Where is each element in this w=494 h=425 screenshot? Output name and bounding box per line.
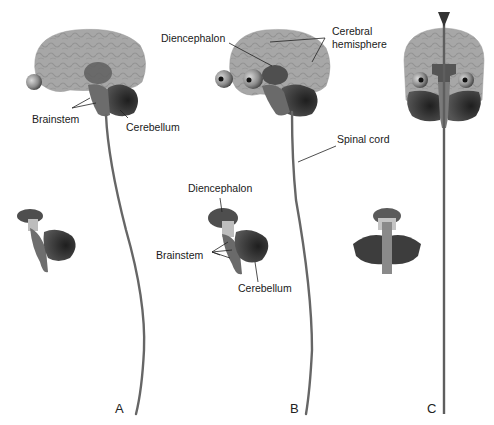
- panel-c-inset: [353, 208, 421, 274]
- panel-c-cerebellum-left: [407, 91, 440, 122]
- panel-label-c: C: [427, 402, 436, 415]
- panel-a-cerebrum: [35, 29, 146, 91]
- panel-label-a: A: [115, 402, 124, 415]
- leader-b-spinal-cord: [298, 146, 336, 162]
- label-b-inset-diencephalon: Diencephalon: [188, 183, 252, 194]
- panel-c-arrow-icon: [438, 12, 450, 27]
- panel-b-eye-2: [243, 69, 263, 89]
- panel-a-spinal-cord: [106, 115, 144, 414]
- brain-anatomy-figure: [0, 0, 494, 425]
- panel-b-cerebrum: [230, 29, 330, 95]
- panel-a-inset: [17, 209, 76, 272]
- label-a-cerebellum: Cerebellum: [126, 122, 180, 133]
- panel-b-diencephalon: [262, 65, 288, 85]
- label-b-cerebral-hemisphere-2: hemisphere: [332, 39, 387, 50]
- label-a-brainstem: Brainstem: [32, 114, 79, 125]
- label-b-spinal-cord: Spinal cord: [337, 134, 390, 145]
- label-b-diencephalon: Diencephalon: [161, 33, 225, 44]
- panel-label-b: B: [290, 402, 299, 415]
- panel-b-inset: [208, 198, 268, 282]
- label-b-inset-cerebellum: Cerebellum: [238, 283, 292, 294]
- label-b-inset-brainstem: Brainstem: [156, 250, 203, 261]
- panel-a-brainstem: [88, 84, 110, 116]
- panel-a-brain: [26, 29, 146, 414]
- panel-a-eye: [26, 74, 42, 90]
- label-b-cerebral-hemisphere-1: Cerebral: [332, 26, 372, 37]
- panel-c-cerebellum-right: [448, 91, 481, 122]
- panel-b-eye-1: [215, 70, 233, 88]
- panel-a-diencephalon: [84, 62, 112, 84]
- leader-b-inset-cerebellum: [255, 262, 258, 282]
- panel-c-brain: [404, 12, 484, 414]
